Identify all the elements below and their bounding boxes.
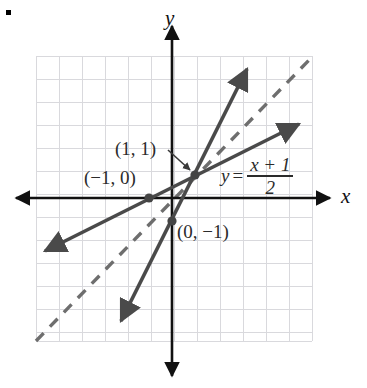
point-dot-neg1-0 — [144, 193, 153, 202]
graph-canvas — [0, 0, 367, 388]
equation-lhs: y — [221, 166, 229, 185]
point-dot-1-1 — [190, 170, 199, 179]
equation-equals-sign: = — [232, 166, 243, 185]
point-label-neg1-0: (−1, 0) — [84, 168, 136, 187]
x-axis-label: x — [341, 186, 350, 207]
point-label-1-1: (1, 1) — [115, 139, 156, 158]
point-label-0-neg1: (0, −1) — [177, 222, 229, 241]
equation-fraction: x + 1 2 — [247, 155, 293, 197]
equation-label: y = x + 1 2 — [221, 155, 293, 197]
y-axis-label: y — [165, 8, 174, 29]
equation-numerator: x + 1 — [247, 155, 293, 175]
coordinate-graph-figure: y x (1, 1) (−1, 0) (0, −1) y = x + 1 2 — [0, 0, 367, 388]
point-dot-0-neg1 — [167, 216, 176, 225]
equation-denominator: 2 — [263, 177, 279, 197]
